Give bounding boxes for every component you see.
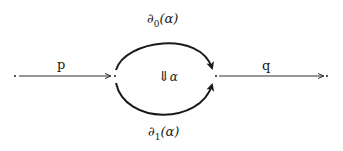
arrow-d0-upper-arc xyxy=(116,43,212,70)
label-q: q xyxy=(262,59,270,72)
node-right xyxy=(326,75,328,77)
arrow-d1-lower-arc xyxy=(116,83,212,115)
node-left xyxy=(14,75,16,77)
double-down-arrow-icon: ⇓ xyxy=(158,68,170,84)
arrow-q xyxy=(219,74,324,79)
node-mid-left xyxy=(114,75,116,77)
label-d0-alpha: ∂0(α) xyxy=(147,12,178,25)
label-p: p xyxy=(57,58,65,71)
arrow-p xyxy=(19,74,111,79)
two-cell-alpha: ⇓α xyxy=(158,69,178,83)
label-d1-alpha: ∂1(α) xyxy=(148,125,179,138)
node-mid-right xyxy=(215,75,217,77)
